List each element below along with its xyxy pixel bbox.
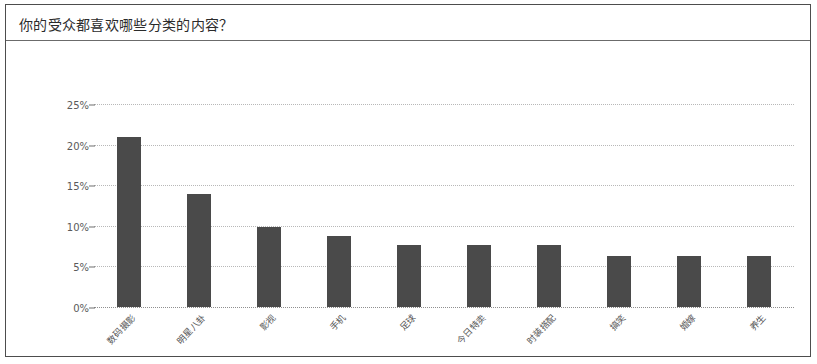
y-axis-tick-label: 20% bbox=[67, 140, 89, 151]
x-axis-label-slot: 今日特卖 bbox=[444, 309, 514, 357]
y-axis-tick-label: 10% bbox=[67, 221, 89, 232]
bar[interactable] bbox=[537, 245, 561, 307]
bar[interactable] bbox=[677, 256, 701, 307]
bar-slot bbox=[164, 104, 234, 307]
y-axis-tick-label: 15% bbox=[67, 181, 89, 192]
x-axis-tick-label: 时装搭配 bbox=[524, 311, 559, 347]
x-axis-label-slot: 婚嫁 bbox=[654, 309, 724, 357]
page-title: 你的受众都喜欢哪些分类的内容？ bbox=[19, 14, 234, 34]
bar-slot bbox=[444, 104, 514, 307]
x-axis-tick-label: 今日特卖 bbox=[454, 311, 489, 347]
x-axis-label-slot: 搞笑 bbox=[584, 309, 654, 357]
bar[interactable] bbox=[467, 245, 491, 307]
bar-slot bbox=[304, 104, 374, 307]
bar-slot bbox=[584, 104, 654, 307]
x-axis-label-slot: 数码摄影 bbox=[94, 309, 164, 357]
x-axis-tick-label: 养生 bbox=[746, 311, 768, 333]
x-axis-tick-label: 搞笑 bbox=[606, 311, 628, 333]
x-axis-tick-label: 手机 bbox=[326, 311, 348, 333]
bar-slot bbox=[374, 104, 444, 307]
bar-chart: 0%5%10%15%20%25% 数码摄影明星八卦影视手机足球今日特卖时装搭配搞… bbox=[6, 41, 810, 357]
bar-slot bbox=[94, 104, 164, 307]
x-axis-label-slot: 手机 bbox=[304, 309, 374, 357]
x-axis-label-slot: 时装搭配 bbox=[514, 309, 584, 357]
bar[interactable] bbox=[187, 194, 211, 307]
x-axis-tick-label: 影视 bbox=[256, 311, 278, 333]
x-axis-label-slot: 明星八卦 bbox=[164, 309, 234, 357]
y-axis-tick-label: 25% bbox=[67, 100, 89, 111]
x-axis-tick-label: 足球 bbox=[396, 311, 418, 333]
bar-series bbox=[94, 104, 794, 307]
plot-area: 0%5%10%15%20%25% bbox=[94, 104, 794, 307]
bar[interactable] bbox=[397, 245, 421, 307]
y-axis-tick-label: 5% bbox=[73, 262, 89, 273]
y-axis-tick-label: 0% bbox=[73, 303, 89, 314]
x-axis-tick-label: 婚嫁 bbox=[676, 311, 698, 333]
chart-card: 你的受众都喜欢哪些分类的内容？ 0%5%10%15%20%25% 数码摄影明星八… bbox=[5, 4, 811, 357]
x-axis-labels: 数码摄影明星八卦影视手机足球今日特卖时装搭配搞笑婚嫁养生 bbox=[94, 309, 794, 357]
x-axis-tick-label: 数码摄影 bbox=[104, 311, 139, 347]
gridline: 0% bbox=[94, 307, 794, 308]
bar[interactable] bbox=[607, 256, 631, 307]
bar[interactable] bbox=[117, 137, 141, 307]
bar[interactable] bbox=[257, 227, 281, 307]
x-axis-label-slot: 养生 bbox=[724, 309, 794, 357]
x-axis-tick-label: 明星八卦 bbox=[174, 311, 209, 347]
x-axis-label-slot: 影视 bbox=[234, 309, 304, 357]
bar-slot bbox=[654, 104, 724, 307]
bar-slot bbox=[724, 104, 794, 307]
bar[interactable] bbox=[747, 256, 771, 307]
x-axis-label-slot: 足球 bbox=[374, 309, 444, 357]
chart-title-bar: 你的受众都喜欢哪些分类的内容？ bbox=[6, 5, 810, 41]
bar-slot bbox=[234, 104, 304, 307]
bar[interactable] bbox=[327, 236, 351, 307]
bar-slot bbox=[514, 104, 584, 307]
